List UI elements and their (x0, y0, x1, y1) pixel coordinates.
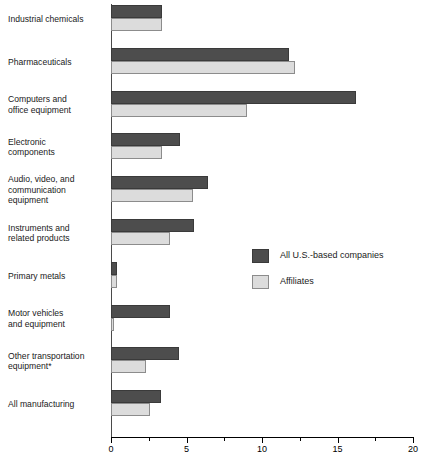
x-axis-tick-label: 15 (326, 444, 350, 454)
chart-category-row: Industrial chemicals (0, 5, 427, 31)
bar-all-us-based-companies (111, 262, 117, 275)
category-label: Motor vehicles and equipment (8, 308, 108, 329)
chart-category-row: Other transportation equipment* (0, 347, 427, 373)
bar-all-us-based-companies (111, 176, 208, 189)
chart-category-row: Electronic components (0, 133, 427, 159)
bar-affiliates (111, 18, 162, 31)
legend-swatch-affiliates (252, 275, 269, 289)
bar-affiliates (111, 318, 114, 331)
category-label: Pharmaceuticals (8, 57, 108, 68)
bar-chart: 05101520 Industrial chemicalsPharmaceuti… (0, 0, 427, 462)
x-axis-major-tick (338, 437, 339, 443)
category-label: Industrial chemicals (8, 14, 108, 25)
bar-affiliates (111, 61, 295, 74)
bar-affiliates (111, 232, 170, 245)
legend-label: All U.S.-based companies (280, 250, 384, 260)
x-axis-tick-label: 20 (401, 444, 425, 454)
x-axis-tick-label: 0 (99, 444, 123, 454)
bar-affiliates (111, 189, 193, 202)
bar-all-us-based-companies (111, 133, 180, 146)
bar-affiliates (111, 146, 162, 159)
chart-category-row: Motor vehicles and equipment (0, 305, 427, 331)
category-label: Other transportation equipment* (8, 351, 108, 372)
category-label: Electronic components (8, 137, 108, 158)
bar-all-us-based-companies (111, 48, 289, 61)
bar-affiliates (111, 104, 247, 117)
legend-item: Affiliates (252, 273, 422, 299)
x-axis-major-tick (262, 437, 263, 443)
bar-affiliates (111, 403, 150, 416)
chart-category-row: Pharmaceuticals (0, 48, 427, 74)
category-label: All manufacturing (8, 399, 108, 410)
x-axis-minor-tick (224, 437, 225, 441)
x-axis-minor-tick (300, 437, 301, 441)
chart-category-row: All manufacturing (0, 390, 427, 416)
category-label: Audio, video, and communication equipmen… (8, 174, 108, 206)
chart-category-row: Instruments and related products (0, 219, 427, 245)
category-label: Primary metals (8, 271, 108, 282)
chart-category-row: Computers and office equipment (0, 91, 427, 117)
bar-all-us-based-companies (111, 219, 194, 232)
x-axis-major-tick (187, 437, 188, 443)
chart-legend: All U.S.-based companiesAffiliates (252, 247, 422, 299)
bar-all-us-based-companies (111, 91, 356, 104)
legend-item: All U.S.-based companies (252, 247, 422, 273)
x-axis-minor-tick (375, 437, 376, 441)
category-label: Computers and office equipment (8, 94, 108, 115)
bar-affiliates (111, 360, 146, 373)
legend-swatch-all-us-based-companies (252, 249, 269, 263)
x-axis-major-tick (111, 437, 112, 443)
category-label: Instruments and related products (8, 223, 108, 244)
chart-category-row: Audio, video, and communication equipmen… (0, 176, 427, 202)
bar-all-us-based-companies (111, 390, 161, 403)
bar-all-us-based-companies (111, 305, 170, 318)
bar-all-us-based-companies (111, 347, 179, 360)
x-axis-minor-tick (149, 437, 150, 441)
x-axis-tick-label: 5 (175, 444, 199, 454)
bar-all-us-based-companies (111, 5, 162, 18)
x-axis-major-tick (413, 437, 414, 443)
x-axis-tick-label: 10 (250, 444, 274, 454)
legend-label: Affiliates (280, 276, 314, 286)
bar-affiliates (111, 275, 117, 288)
